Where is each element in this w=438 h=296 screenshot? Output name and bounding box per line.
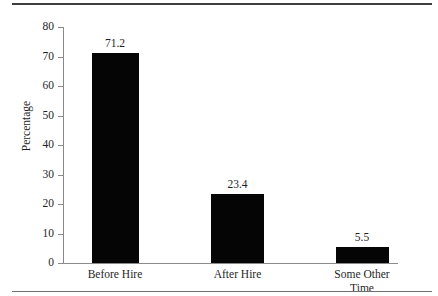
y-tick-label: 20: [0, 198, 54, 210]
y-tick-label-wrap: 0: [0, 257, 54, 269]
y-tick-mark: [58, 116, 63, 117]
bar: [336, 247, 389, 263]
y-tick-mark: [58, 145, 63, 146]
x-category-label-line: Before Hire: [60, 268, 170, 282]
x-category-label: After Hire: [183, 268, 293, 282]
x-category-label-line: After Hire: [183, 268, 293, 282]
figure-bottom-rule: [12, 291, 432, 292]
y-tick-label: 80: [0, 21, 54, 33]
y-tick-label-wrap: 70: [0, 51, 54, 63]
bar-value-label: 71.2: [75, 37, 155, 49]
y-tick-label-wrap: 50: [0, 110, 54, 122]
bar-chart: Percentage 01020304050607080 71.2Before …: [0, 0, 438, 296]
y-tick-label-wrap: 30: [0, 169, 54, 181]
y-tick-label: 40: [0, 139, 54, 151]
bar: [92, 53, 139, 263]
x-axis-line: [63, 263, 398, 264]
bar: [211, 194, 264, 263]
y-axis-line: [63, 27, 64, 264]
y-tick-label: 70: [0, 51, 54, 63]
y-tick-mark: [58, 27, 63, 28]
y-tick-label-wrap: 60: [0, 80, 54, 92]
y-tick-mark: [58, 86, 63, 87]
y-axis-title: Percentage: [20, 86, 32, 166]
y-tick-label: 0: [0, 257, 54, 269]
y-tick-label-wrap: 20: [0, 198, 54, 210]
y-tick-label-wrap: 80: [0, 21, 54, 33]
x-category-label-line: Time: [307, 282, 417, 296]
y-tick-label: 50: [0, 110, 54, 122]
y-tick-mark: [58, 263, 63, 264]
y-tick-mark: [58, 175, 63, 176]
y-tick-mark: [58, 204, 63, 205]
bar-value-label: 5.5: [322, 231, 402, 243]
y-tick-mark: [58, 234, 63, 235]
y-tick-label-wrap: 10: [0, 228, 54, 240]
y-tick-label: 10: [0, 228, 54, 240]
x-category-label: Before Hire: [60, 268, 170, 282]
y-tick-label: 30: [0, 169, 54, 181]
x-category-label-line: Some Other: [307, 268, 417, 282]
y-tick-label: 60: [0, 80, 54, 92]
y-tick-label-wrap: 40: [0, 139, 54, 151]
y-tick-mark: [58, 57, 63, 58]
bar-value-label: 23.4: [198, 178, 278, 190]
